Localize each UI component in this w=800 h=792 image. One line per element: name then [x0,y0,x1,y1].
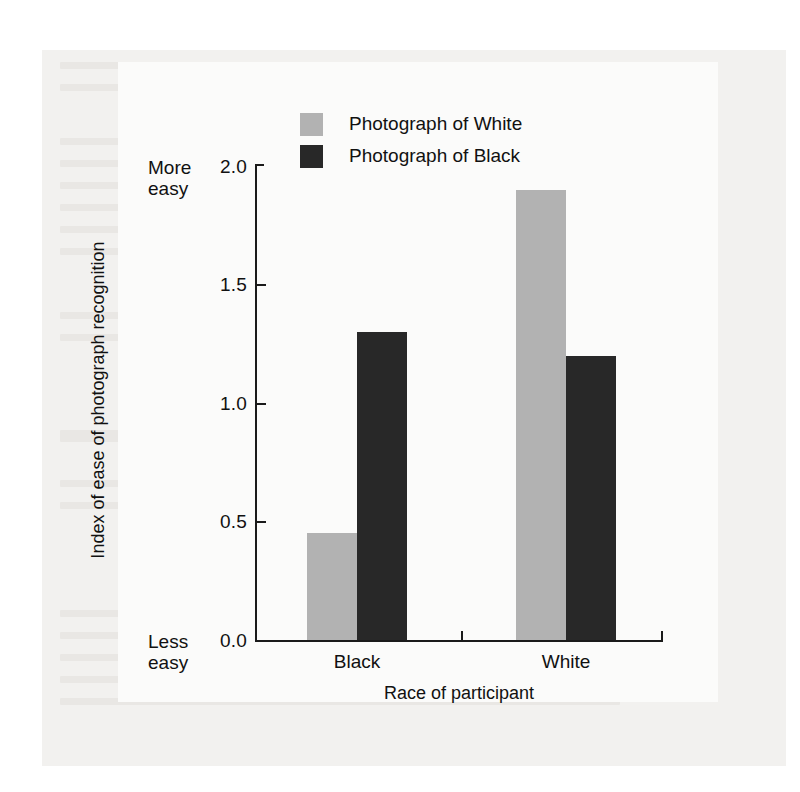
legend-swatch-icon [300,145,323,168]
y-tick-label: 0.5 [187,512,247,531]
y-tick-label: 0.0 [187,631,247,650]
bar-white-participant-black-photo [566,356,616,640]
legend-swatch-icon [300,113,323,136]
x-tick-label-white: White [486,652,646,671]
legend-item-label: Photograph of Black [349,146,520,166]
x-axis-line [255,640,663,642]
y-axis-title: Index of ease of photograph recognition [88,185,108,615]
y-tick-label: 1.5 [187,275,247,294]
x-axis-title: Race of participant [256,683,662,703]
y-axis-tick-labels: 2.0 1.5 1.0 0.5 0.0 [185,0,247,700]
bar-white-participant-white-photo [516,190,566,640]
y-tick-label: 2.0 [187,157,247,176]
legend-item-label: Photograph of White [349,114,522,134]
legend-item-photograph-of-white: Photograph of White [300,108,630,140]
x-tick-label-black: Black [277,652,437,671]
bar-black-participant-black-photo [357,332,407,640]
y-tick-label: 1.0 [187,394,247,413]
plot-area [256,166,662,640]
chart-legend: Photograph of White Photograph of Black [300,108,630,172]
bar-black-participant-white-photo [307,533,357,640]
